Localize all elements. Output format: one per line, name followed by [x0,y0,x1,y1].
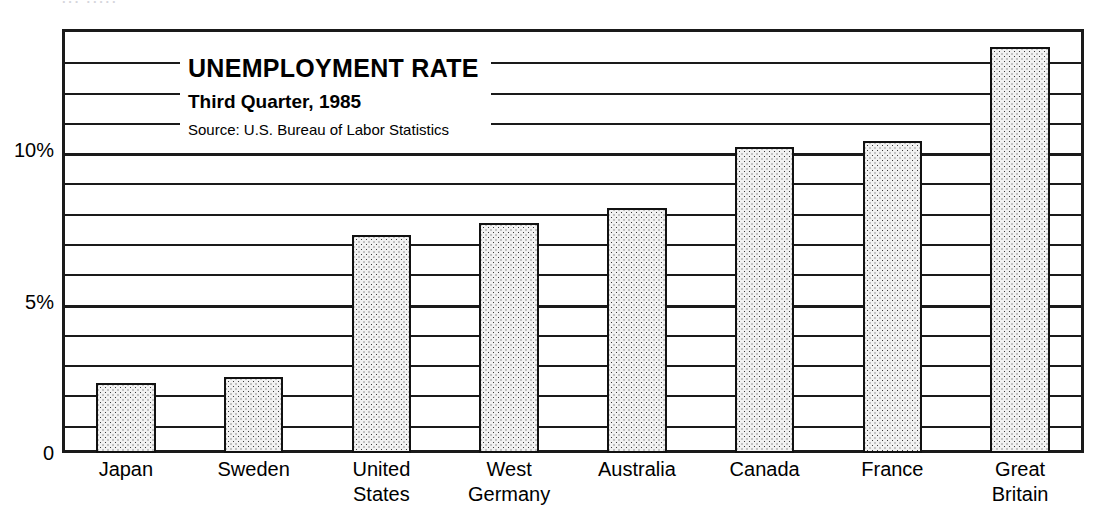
chart-title: UNEMPLOYMENT RATE [188,54,479,84]
bar-canada [735,147,794,453]
y-axis-tick-label: 10% [14,139,54,162]
bar-australia [607,208,666,453]
bar-united-states [352,235,411,453]
chart-subtitle: Third Quarter, 1985 [188,91,479,113]
x-axis-label-united-states: United States [318,457,446,507]
chart-source-note: Source: U.S. Bureau of Labor Statistics [188,121,479,138]
y-axis-tick-label: 5% [25,290,54,313]
gridline [65,426,1081,428]
x-axis-labels: JapanSwedenUnited StatesWest GermanyAust… [62,457,1084,527]
gridline [65,335,1081,337]
x-axis-label-japan: Japan [62,457,190,482]
x-axis-label-australia: Australia [573,457,701,482]
scan-artifact-text: ··· ····· [62,0,118,9]
gridline [65,305,1081,308]
gridline [65,244,1081,246]
bar-japan [96,383,155,453]
bar-france [863,141,922,453]
gridline [65,274,1081,276]
gridline [65,183,1081,185]
gridline [65,365,1081,367]
y-axis-tick-label: 0 [43,442,54,465]
unemployment-rate-bar-chart: ··· ····· 10%5%0 UNEMPLOYMENT RATE Third… [0,0,1114,532]
x-axis-label-west-germany: West Germany [445,457,573,507]
bar-great-britain [990,47,1049,453]
gridline [65,395,1081,397]
x-axis-label-canada: Canada [701,457,829,482]
gridline [65,153,1081,156]
x-axis-label-france: France [829,457,957,482]
bar-sweden [224,377,283,453]
y-axis-labels: 10%5%0 [0,29,54,453]
x-axis-label-sweden: Sweden [190,457,318,482]
x-axis-label-great-britain: Great Britain [956,457,1084,507]
chart-title-block: UNEMPLOYMENT RATE Third Quarter, 1985 So… [180,48,491,147]
bar-west-germany [479,223,538,453]
gridline [65,214,1081,216]
